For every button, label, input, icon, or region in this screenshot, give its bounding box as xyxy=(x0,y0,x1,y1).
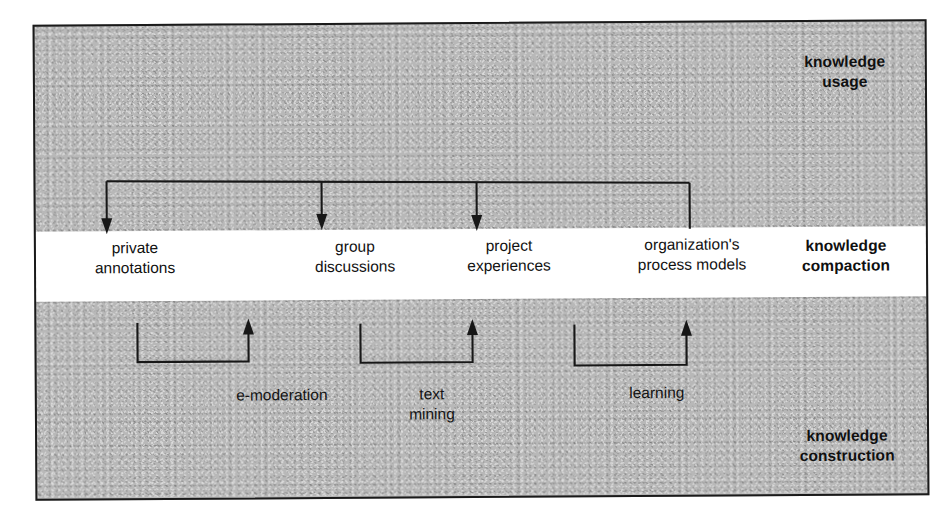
process-label-text-mining: text mining xyxy=(367,384,497,425)
zone-label-knowledge-compaction: knowledge compaction xyxy=(776,235,916,276)
node-label-private-annotations: private annotations xyxy=(54,238,216,279)
diagram-canvas: private annotations group discussions pr… xyxy=(0,0,951,519)
zone-label-knowledge-usage: knowledge usage xyxy=(775,51,915,92)
diagram-frame: private annotations group discussions pr… xyxy=(33,19,930,500)
construction-link-path-text-mining xyxy=(360,323,472,363)
node-label-project-experiences: project experiences xyxy=(428,235,590,276)
zone-label-knowledge-construction: knowledge construction xyxy=(777,425,917,466)
arrowhead-up-text-mining xyxy=(467,319,478,335)
construction-link-path-e-moderation xyxy=(137,322,248,362)
construction-link-path-learning xyxy=(574,324,686,366)
arrowhead-up-e-moderation xyxy=(243,318,254,334)
arrowhead-down-group-discussions xyxy=(316,214,327,230)
process-label-e-moderation: e-moderation xyxy=(187,385,377,406)
node-label-organizations-process-models: organization's process models xyxy=(606,234,778,275)
process-label-learning: learning xyxy=(577,382,737,403)
arrowhead-up-learning xyxy=(681,320,692,336)
usage-bus-horizontal-line xyxy=(107,178,690,187)
node-label-group-discussions: group discussions xyxy=(274,236,436,277)
